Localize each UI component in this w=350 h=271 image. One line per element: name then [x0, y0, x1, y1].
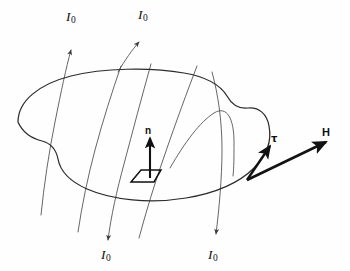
label-tangent-vector: τ: [271, 134, 277, 144]
label-current-subscript: 0: [71, 15, 76, 25]
label-current-symbol: I: [208, 247, 213, 262]
field-line-7-arc: [170, 111, 234, 176]
label-current-subscript: 0: [143, 13, 148, 23]
diagram-canvas: [0, 0, 350, 271]
label-current-symbol: I: [66, 9, 71, 24]
field-line-3: [108, 64, 151, 240]
label-current-bottom-right: I0: [208, 248, 218, 264]
label-current-subscript: 0: [106, 253, 111, 263]
field-line-2: [78, 66, 121, 232]
field-line-5: [212, 72, 222, 234]
label-current-symbol: I: [138, 7, 143, 22]
field-line-6: [118, 42, 139, 72]
label-field-vector: H: [322, 127, 330, 138]
field-line-4: [139, 66, 197, 238]
field-line-group: [41, 42, 234, 240]
label-current-bottom-left: I0: [101, 248, 111, 264]
boundary-vector-group: [247, 142, 326, 180]
field-line-1: [41, 50, 71, 215]
label-current-top-left: I0: [66, 10, 76, 26]
label-current-symbol: I: [101, 247, 106, 262]
label-current-subscript: 0: [213, 253, 218, 263]
label-normal-vector: n: [145, 126, 151, 136]
normal-vector-group: [131, 138, 161, 182]
label-current-top-right: I0: [138, 8, 148, 24]
physics-diagram-figure: I0 I0 I0 I0 n τ H: [0, 0, 350, 271]
